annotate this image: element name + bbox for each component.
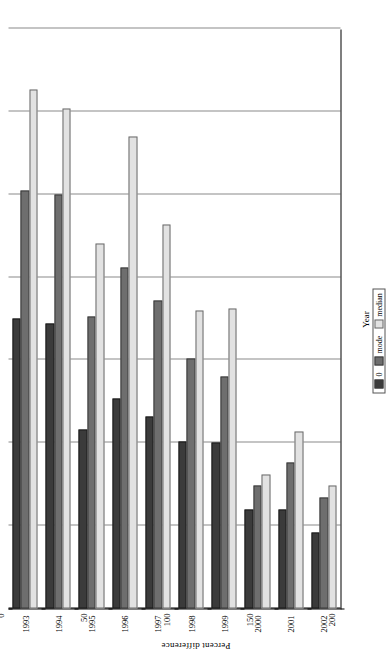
legend-item-mode: mode	[374, 335, 383, 365]
legend-label: mode	[374, 335, 383, 353]
category-label-1997: 1997	[152, 615, 162, 632]
category-axis-line	[340, 29, 341, 609]
legend-label: 0	[374, 372, 383, 376]
bar-1995-0	[78, 429, 86, 608]
chart-canvas: Percent difference 050100150200250300350…	[0, 0, 390, 661]
chart-legend: 0modemedian	[372, 288, 385, 393]
bar-1993-0	[12, 318, 20, 608]
category-label-1995: 1995	[86, 615, 96, 632]
bar-1994-mode	[54, 194, 62, 608]
category-axis-title: Year	[360, 29, 370, 609]
gridline	[8, 110, 340, 111]
bar-1996-mode	[120, 267, 128, 608]
category-tick	[8, 609, 12, 610]
bar-1999-median	[228, 308, 236, 608]
bar-2002-0	[311, 532, 319, 608]
category-tick	[240, 609, 244, 610]
bar-1998-mode	[186, 358, 194, 608]
category-label-1994: 1994	[53, 615, 63, 632]
bar-1996-0	[112, 398, 120, 608]
bar-1993-median	[29, 89, 37, 608]
plot-area	[8, 29, 340, 609]
category-label-1996: 1996	[119, 615, 129, 632]
legend-swatch-0	[374, 379, 383, 388]
bar-1994-0	[45, 323, 53, 608]
legend-item-median: median	[374, 293, 383, 329]
category-tick	[307, 609, 311, 610]
bar-1994-median	[62, 108, 70, 608]
bar-1995-mode	[87, 316, 95, 608]
legend-item-0: 0	[374, 372, 383, 388]
bar-2001-median	[294, 431, 302, 608]
category-label-1999: 1999	[219, 615, 229, 632]
category-tick	[207, 609, 211, 610]
category-tick	[274, 609, 278, 610]
bar-2001-mode	[286, 462, 294, 608]
bar-1999-0	[211, 442, 219, 608]
chart-figure: Percent difference 050100150200250300350…	[0, 0, 390, 661]
bar-1997-0	[145, 416, 153, 608]
category-tick	[41, 609, 45, 610]
legend-swatch-mode	[374, 356, 383, 365]
bar-1998-0	[178, 441, 186, 608]
bar-2000-median	[261, 474, 269, 608]
category-label-1998: 1998	[186, 615, 196, 632]
bar-2001-0	[278, 509, 286, 608]
category-label-2000: 2000	[252, 615, 262, 632]
category-label-2002: 2002	[318, 615, 328, 632]
category-tick	[340, 609, 344, 610]
bar-1993-mode	[20, 190, 28, 608]
bar-1997-mode	[153, 300, 161, 608]
bar-1998-median	[195, 310, 203, 608]
bar-2002-mode	[319, 497, 327, 608]
bar-2000-0	[244, 509, 252, 608]
bar-1995-median	[95, 243, 103, 608]
value-axis-title: Percent difference	[0, 637, 390, 653]
category-label-2001: 2001	[285, 615, 295, 632]
category-tick	[141, 609, 145, 610]
bar-2000-mode	[253, 485, 261, 608]
bar-2002-median	[328, 485, 336, 608]
category-tick	[108, 609, 112, 610]
category-label-1993: 1993	[20, 615, 30, 632]
bar-1997-median	[162, 224, 170, 608]
value-tick-label: 0	[0, 613, 5, 637]
legend-swatch-median	[374, 319, 383, 328]
bar-1999-mode	[220, 376, 228, 608]
bar-1996-median	[128, 136, 136, 608]
gridline	[8, 27, 340, 28]
legend-label: median	[374, 293, 383, 317]
plot-area-wrapper: Percent difference 050100150200250300350…	[0, 0, 390, 661]
category-tick	[74, 609, 78, 610]
category-tick	[174, 609, 178, 610]
